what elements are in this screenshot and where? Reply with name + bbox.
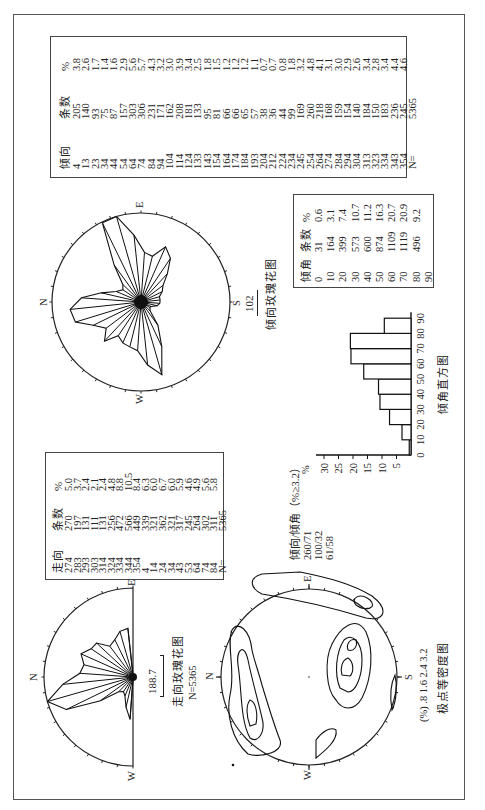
dip-angle-histogram: 510152025300102030405060708090 [0,0,485,810]
svg-text:0: 0 [415,452,426,457]
svg-text:30: 30 [415,404,426,415]
svg-text:60: 60 [415,359,426,370]
svg-text:5: 5 [391,463,402,468]
svg-text:50: 50 [415,374,426,385]
svg-text:80: 80 [415,328,426,339]
svg-text:70: 70 [415,343,426,354]
histogram-caption: 倾角直方图 [434,354,450,414]
svg-text:40: 40 [415,389,426,400]
figure-page: N W E 188.7 走向玫瑰花图 N=5365 N W E S (%) .8… [0,0,485,810]
svg-text:25: 25 [333,463,344,474]
svg-text:90: 90 [415,313,426,324]
svg-text:15: 15 [362,463,373,474]
svg-text:10: 10 [377,463,388,474]
histogram-ylabel: % [300,465,311,474]
svg-text:20: 20 [348,463,359,474]
svg-text:20: 20 [415,419,426,430]
svg-text:30: 30 [319,463,330,474]
svg-text:10: 10 [415,435,426,446]
